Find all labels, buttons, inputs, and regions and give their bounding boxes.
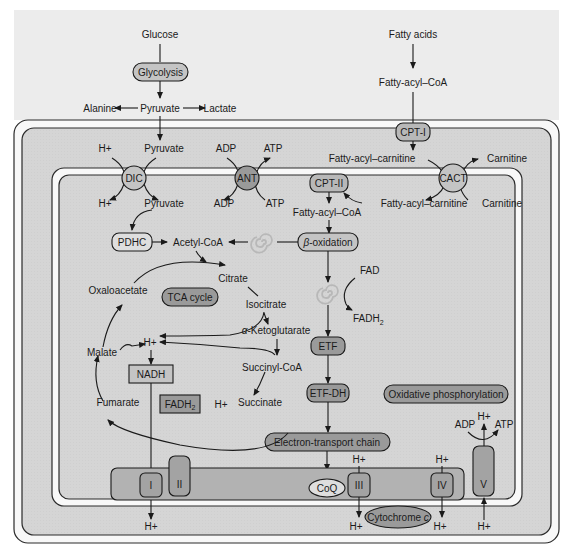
pyruvate-cytosol-label: Pyruvate xyxy=(140,103,180,114)
h-plus-complex-iii-out: H+ xyxy=(349,521,362,532)
complex-iv-label: IV xyxy=(437,480,447,491)
etf-label: ETF xyxy=(319,341,338,352)
h-plus-tca-center: H+ xyxy=(143,337,156,348)
pdhc-label: PDHC xyxy=(118,237,146,248)
atp-matrix-label: ATP xyxy=(266,198,285,209)
complex-v-label: V xyxy=(480,479,487,490)
fatty-acyl-carnitine-matrix-label: Fatty-acyl–carnitine xyxy=(381,198,468,209)
lactate-label: Lactate xyxy=(204,103,237,114)
atp-ims-label: ATP xyxy=(264,143,283,154)
electron-transport-chain-label: Electron-transport chain xyxy=(274,437,380,448)
mitochondrial-metabolism-diagram: Glucose Glycolysis Pyruvate Alanine Lact… xyxy=(0,0,573,552)
glucose-label: Glucose xyxy=(142,29,179,40)
complex-iii-label: III xyxy=(355,480,363,491)
succinyl-coa-label: Succinyl-CoA xyxy=(242,362,302,373)
cpt1-label: CPT-I xyxy=(400,127,426,138)
fatty-acyl-coa-cytosol-label: Fatty-acyl–CoA xyxy=(379,77,448,88)
h-plus-complex-iii-in: H+ xyxy=(352,454,365,465)
h-plus-complex-v-top: H+ xyxy=(477,411,490,422)
cytochrome-c-label: Cytochrome c xyxy=(367,512,429,523)
isocitrate-label: Isocitrate xyxy=(246,299,287,310)
etc-membrane-band xyxy=(111,468,464,500)
beta-oxidation-label: β-oxidation xyxy=(302,237,352,248)
h-plus-ims-dic: H+ xyxy=(98,143,111,154)
etf-dh-label: ETF-DH xyxy=(310,388,347,399)
alpha-ketoglutarate-label: α-Ketoglutarate xyxy=(242,325,311,336)
h-plus-complex-iv-out: H+ xyxy=(433,521,446,532)
cact-label: CACT xyxy=(439,173,466,184)
h-plus-complex-i-out: H+ xyxy=(144,521,157,532)
glycolysis-label: Glycolysis xyxy=(138,67,183,78)
fumarate-label: Fumarate xyxy=(97,397,140,408)
acetyl-coa-label: Acetyl-CoA xyxy=(173,237,223,248)
citrate-label: Citrate xyxy=(218,273,248,284)
coq-label: CoQ xyxy=(317,483,338,494)
nadh-label: NADH xyxy=(137,369,165,380)
adp-complex-v-label: ADP xyxy=(455,419,476,430)
dic-label: DIC xyxy=(125,173,142,184)
complex-i-label: I xyxy=(150,480,153,491)
complex-ii xyxy=(169,456,190,496)
complex-ii-label: II xyxy=(177,479,183,490)
cpt2-label: CPT-II xyxy=(315,178,343,189)
oxidative-phosphorylation-label: Oxidative phosphorylation xyxy=(388,389,503,400)
fatty-acids-label: Fatty acids xyxy=(389,29,437,40)
tca-cycle-label: TCA cycle xyxy=(167,292,212,303)
adp-ims-label: ADP xyxy=(216,143,237,154)
adp-matrix-label: ADP xyxy=(214,198,235,209)
malate-label: Malate xyxy=(87,347,117,358)
fatty-acyl-carnitine-ims-label: Fatty-acyl–carnitine xyxy=(329,153,416,164)
h-plus-matrix-dic: H+ xyxy=(98,198,111,209)
pyruvate-matrix-label: Pyruvate xyxy=(144,198,184,209)
diagram-canvas: Glucose Glycolysis Pyruvate Alanine Lact… xyxy=(0,0,573,552)
fad-label: FAD xyxy=(360,265,379,276)
h-plus-complex-iv-in: H+ xyxy=(435,454,448,465)
h-plus-tca-lower: H+ xyxy=(214,399,227,410)
fadh2-tca-label: FADH2 xyxy=(165,399,196,411)
carnitine-ims-label: Carnitine xyxy=(487,153,527,164)
oxaloacetate-label: Oxaloacetate xyxy=(89,285,148,296)
atp-complex-v-label: ATP xyxy=(495,419,514,430)
pyruvate-ims-label: Pyruvate xyxy=(144,143,184,154)
ant-label: ANT xyxy=(237,173,257,184)
alanine-label: Alanine xyxy=(83,103,117,114)
succinate-label: Succinate xyxy=(238,397,282,408)
carnitine-matrix-label: Carnitine xyxy=(482,198,522,209)
h-plus-complex-v-bottom: H+ xyxy=(477,521,490,532)
fatty-acyl-coa-matrix-label: Fatty-acyl–CoA xyxy=(293,207,362,218)
